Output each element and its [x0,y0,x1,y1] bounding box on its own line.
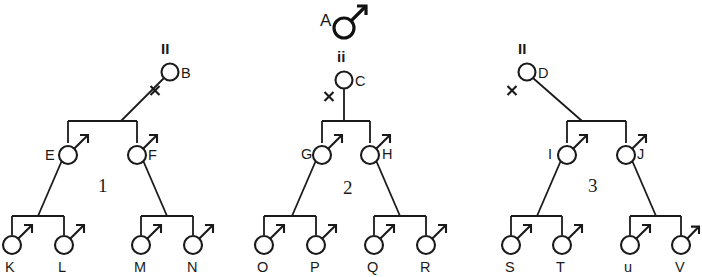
individual-label-B: B [181,65,191,81]
male-symbol-K-circle [3,236,21,254]
male-symbol-S-arrow-shaft [517,225,531,239]
male-symbol-N-circle [184,236,202,254]
individual-V: V [672,227,699,275]
individual-label-L: L [58,259,66,275]
individual-label-M: M [134,259,146,275]
individual-label-J: J [637,146,644,162]
male-symbol-M-arrow-shaft [147,225,161,239]
male-symbol-J-circle [617,146,635,164]
individual-O: O [255,225,284,275]
descent-line-E [38,162,62,217]
male-symbol-L-circle [55,236,73,254]
male-symbol-U-circle [621,236,639,254]
individual-label-K: K [5,259,15,275]
individual-R: R [417,225,446,275]
descent-line-J [633,162,657,217]
male-symbol-A-circle [334,18,354,38]
descent-line-D [534,79,583,122]
male-symbol-I-circle [558,146,576,164]
individual-E: E [45,135,88,164]
male-symbol-V-circle [672,236,690,254]
individual-K: K [3,225,32,275]
individual-T: T [553,225,582,275]
individual-label-T: T [556,259,565,275]
individual-label-I: I [548,146,552,162]
individual-N: N [184,225,213,275]
male-symbol-N-arrow-shaft [199,225,213,239]
genotype-label-B: II [161,40,169,57]
individual-label-N: N [187,259,197,275]
individual-P: P [307,225,336,275]
male-symbol-O-circle [255,236,273,254]
individual-label-C: C [355,73,365,89]
individual-M: M [132,225,161,275]
individual-B: B II [151,40,191,95]
male-symbol-P-circle [307,236,325,254]
male-symbol-E-circle [59,146,77,164]
female-symbol-D-circle [519,64,536,81]
male-symbol-V-arrow-shaft [687,227,699,239]
individual-H: H [361,135,392,164]
male-symbol-R-arrow-shaft [432,225,446,239]
male-symbol-Q-circle [365,236,383,254]
individual-label-Q: Q [367,259,378,275]
individual-J: J [617,135,646,164]
individual-label-S: S [505,259,515,275]
individual-label-U: u [624,259,632,275]
pedigree-chart: B II E F 1 [0,0,702,277]
female-symbol-C-circle [336,72,353,89]
female-symbol-B-circle [162,64,179,81]
male-symbol-L-arrow-shaft [70,225,84,239]
descent-line-H [377,162,401,217]
genotype-label-D: II [518,40,526,57]
individual-F: F [128,135,157,164]
male-symbol-H-circle [361,146,379,164]
male-symbol-G-circle [313,146,331,164]
individual-label-D: D [538,65,548,81]
group-number-3: 3 [588,175,598,196]
individual-S: S [502,225,531,275]
individual-C: C [325,72,366,102]
male-symbol-M-circle [132,236,150,254]
group-number-1: 1 [98,175,108,196]
pedigree-canvas: B II E F 1 [0,0,702,277]
male-symbol-U-arrow-shaft [636,225,650,239]
genotype-label-C: ii [337,48,345,65]
pedigree-group-2: A ii C G H 2 [255,6,446,275]
individual-label-G: G [301,146,312,162]
group-number-2: 2 [343,177,353,198]
pedigree-group-1: B II E F 1 [3,40,213,275]
descent-line-G [292,162,316,217]
individual-Q: Q [365,225,394,275]
individual-L: L [55,225,84,275]
individual-U: u [621,225,650,275]
male-symbol-F-circle [128,146,146,164]
male-symbol-S-circle [502,236,520,254]
individual-label-V: V [675,259,685,275]
individual-A: A [320,6,366,38]
male-symbol-P-arrow-shaft [322,225,336,239]
male-symbol-T-circle [553,236,571,254]
male-symbol-A-arrow-shaft [352,6,367,21]
individual-label-P: P [310,259,320,275]
pedigree-group-3: D II I J 3 S [502,40,699,275]
individual-label-O: O [257,259,268,275]
individual-label-A: A [320,11,332,30]
male-symbol-G-arrow-shaft [328,135,342,149]
descent-line-I [537,162,561,217]
individual-label-F: F [148,147,157,163]
male-symbol-R-circle [417,236,435,254]
descent-line-F [144,162,168,217]
male-symbol-E-arrow-shaft [74,135,88,149]
individual-label-R: R [420,259,430,275]
male-symbol-Q-arrow-shaft [380,225,394,239]
male-symbol-K-arrow-shaft [18,225,32,239]
male-symbol-I-arrow-shaft [573,135,587,149]
individual-label-H: H [382,146,392,162]
individual-label-E: E [45,147,55,163]
male-symbol-T-arrow-shaft [568,225,582,239]
male-symbol-O-arrow-shaft [270,225,284,239]
descent-line-B [121,79,164,122]
